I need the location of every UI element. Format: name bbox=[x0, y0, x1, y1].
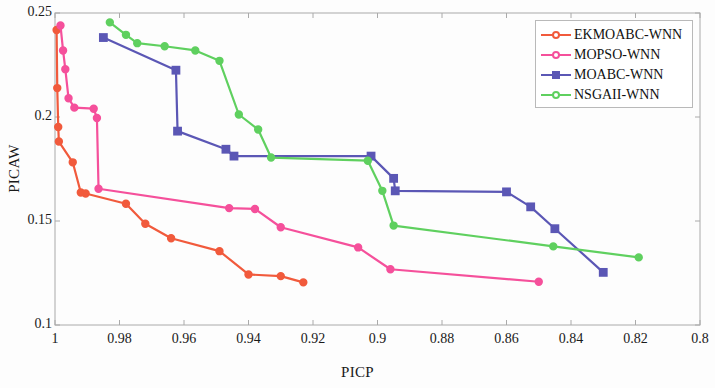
data-point-marker bbox=[222, 146, 229, 153]
legend-item-label: NSGAII-WNN bbox=[574, 88, 660, 102]
x-axis-tick-label: 0.8 bbox=[672, 331, 715, 347]
data-point-marker bbox=[60, 47, 67, 54]
legend-item-label: EKMOABC-WNN bbox=[574, 28, 682, 42]
pareto-front-figure: PICAW PICP 10.980.960.940.920.90.880.860… bbox=[0, 0, 715, 388]
data-point-marker bbox=[277, 224, 284, 231]
data-point-marker bbox=[245, 271, 252, 278]
data-point-marker bbox=[106, 19, 113, 26]
data-point-marker bbox=[174, 128, 181, 135]
data-point-marker bbox=[134, 40, 141, 47]
y-axis-tick-label: 0.25 bbox=[0, 4, 52, 20]
x-axis-tick-label: 1 bbox=[27, 331, 83, 347]
data-point-marker bbox=[55, 138, 62, 145]
data-point-marker bbox=[277, 273, 284, 280]
data-point-marker bbox=[230, 153, 237, 160]
legend-item-moabc-wnn[interactable]: MOABC-WNN bbox=[536, 65, 692, 85]
data-point-marker bbox=[161, 43, 168, 50]
data-point-marker bbox=[268, 154, 275, 161]
legend-marker-icon bbox=[552, 51, 560, 59]
legend-item-nsgaii-wnn[interactable]: NSGAII-WNN bbox=[536, 85, 692, 105]
data-point-marker bbox=[192, 47, 199, 54]
legend-swatch-icon bbox=[541, 28, 571, 42]
legend-item-label: MOPSO-WNN bbox=[574, 48, 660, 62]
data-point-marker bbox=[82, 190, 89, 197]
x-axis-tick-label: 0.84 bbox=[543, 331, 599, 347]
y-axis-tick-label: 0.15 bbox=[0, 212, 52, 228]
legend-marker-icon bbox=[552, 31, 560, 39]
data-point-marker bbox=[100, 34, 107, 41]
data-point-marker bbox=[535, 278, 542, 285]
series-mopso-wnn bbox=[57, 22, 542, 285]
data-point-marker bbox=[635, 254, 642, 261]
data-point-marker bbox=[95, 185, 102, 192]
data-point-marker bbox=[550, 243, 557, 250]
legend-marker-icon bbox=[552, 91, 560, 99]
x-axis-title: PICP bbox=[0, 364, 715, 381]
data-point-marker bbox=[168, 235, 175, 242]
legend-item-mopso-wnn[interactable]: MOPSO-WNN bbox=[536, 45, 692, 65]
data-point-marker bbox=[503, 188, 510, 195]
data-point-marker bbox=[551, 225, 558, 232]
legend-item-ekmoabc-wnn[interactable]: EKMOABC-WNN bbox=[536, 25, 692, 45]
legend-swatch-icon bbox=[541, 68, 571, 82]
series-line bbox=[60, 25, 538, 281]
x-axis-tick-label: 0.98 bbox=[92, 331, 148, 347]
data-point-marker bbox=[65, 95, 72, 102]
data-point-marker bbox=[55, 124, 62, 131]
data-point-marker bbox=[57, 22, 64, 29]
data-point-marker bbox=[226, 205, 233, 212]
x-axis-tick-label: 0.94 bbox=[221, 331, 277, 347]
x-axis-tick-label: 0.82 bbox=[608, 331, 664, 347]
data-point-marker bbox=[90, 105, 97, 112]
data-point-marker bbox=[54, 85, 61, 92]
legend: EKMOABC-WNNMOPSO-WNNMOABC-WNNNSGAII-WNN bbox=[535, 20, 693, 108]
data-point-marker bbox=[123, 200, 130, 207]
y-axis-tick-label: 0.1 bbox=[0, 316, 52, 332]
data-point-marker bbox=[379, 187, 386, 194]
data-point-marker bbox=[235, 111, 242, 118]
data-point-marker bbox=[364, 157, 371, 164]
data-point-marker bbox=[216, 57, 223, 64]
y-axis-tick-label: 0.2 bbox=[0, 108, 52, 124]
data-point-marker bbox=[142, 220, 149, 227]
data-point-marker bbox=[94, 115, 101, 122]
legend-swatch-icon bbox=[541, 88, 571, 102]
data-point-marker bbox=[387, 266, 394, 273]
data-point-marker bbox=[216, 248, 223, 255]
legend-item-label: MOABC-WNN bbox=[574, 68, 663, 82]
legend-swatch-icon bbox=[541, 48, 571, 62]
data-point-marker bbox=[69, 159, 76, 166]
data-point-marker bbox=[600, 269, 607, 276]
data-point-marker bbox=[255, 126, 262, 133]
data-point-marker bbox=[392, 187, 399, 194]
data-point-marker bbox=[355, 244, 362, 251]
data-point-marker bbox=[527, 203, 534, 210]
data-point-marker bbox=[390, 222, 397, 229]
data-point-marker bbox=[123, 31, 130, 38]
x-axis-tick-label: 0.9 bbox=[350, 331, 406, 347]
x-axis-tick-label: 0.92 bbox=[285, 331, 341, 347]
legend-marker-icon bbox=[552, 71, 560, 79]
data-point-marker bbox=[252, 206, 259, 213]
data-point-marker bbox=[390, 175, 397, 182]
data-point-marker bbox=[71, 104, 78, 111]
data-point-marker bbox=[300, 279, 307, 286]
data-point-marker bbox=[172, 67, 179, 74]
x-axis-tick-label: 0.88 bbox=[414, 331, 470, 347]
x-axis-tick-label: 0.86 bbox=[479, 331, 535, 347]
x-axis-tick-label: 0.96 bbox=[156, 331, 212, 347]
data-point-marker bbox=[62, 66, 69, 73]
y-axis-title: PICAW bbox=[6, 129, 23, 209]
